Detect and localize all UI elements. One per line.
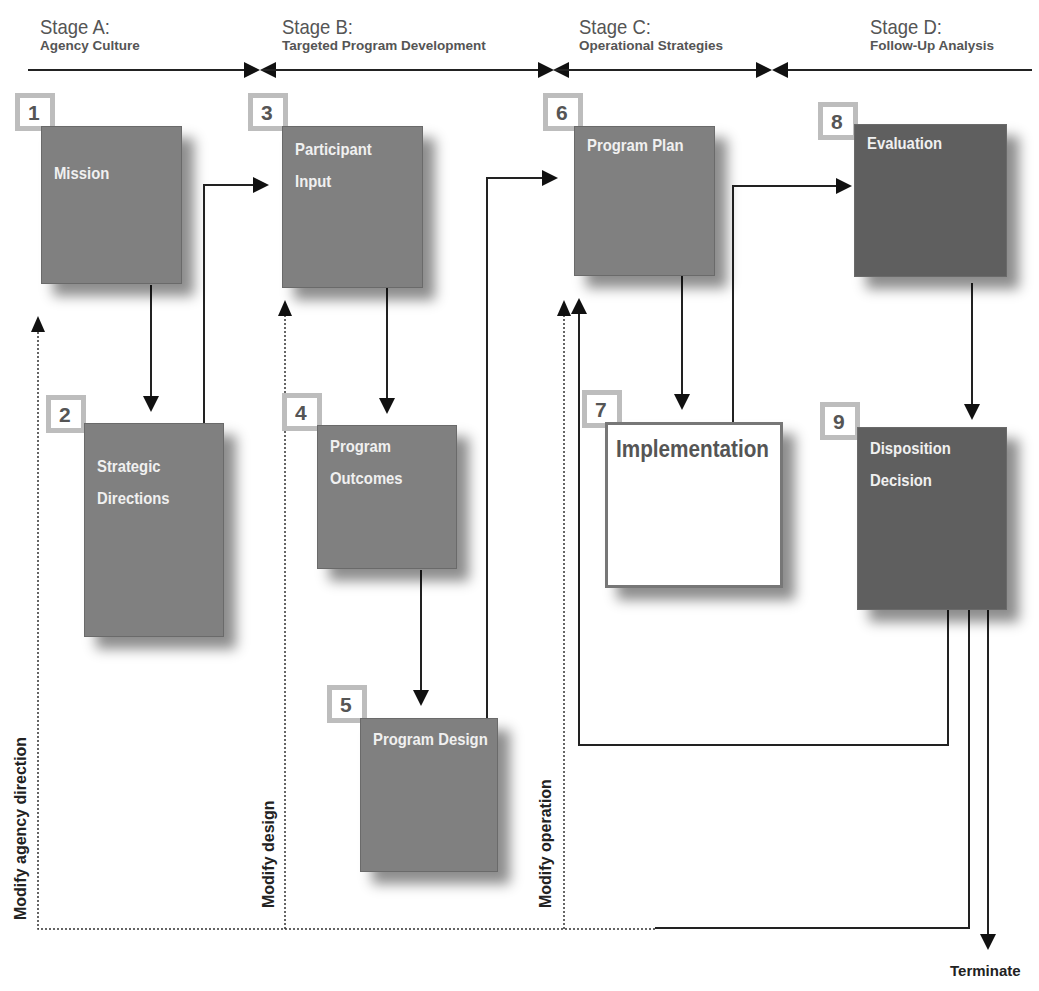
node-program-plan-label: Program Plan [587,129,691,161]
node-program-outcomes-label-1: Program [330,430,433,462]
node-mission-label: Mission [54,157,158,189]
node-strategic-directions[interactable]: Strategic Directions [84,423,224,637]
node-participant-input-label-1: Participant [295,133,399,165]
label-modify-design: Modify design [260,800,278,908]
node-strategic-directions-label-1: Strategic [97,450,200,482]
label-modify-agency-direction: Modify agency direction [12,737,30,920]
node-evaluation-label: Evaluation [867,127,981,159]
node-strategic-directions-label-2: Directions [97,482,200,514]
node-implementation[interactable]: Implementation [605,422,783,588]
node-implementation-label: Implementation [616,433,756,465]
label-modify-operation: Modify operation [537,779,555,908]
node-program-design-label: Program Design [373,723,474,755]
node-disposition-decision-label-2: Decision [870,464,982,496]
node-program-plan[interactable]: Program Plan [574,126,715,276]
node-4-number: 4 [282,393,322,431]
node-program-outcomes[interactable]: Program Outcomes [317,425,457,569]
node-participant-input[interactable]: Participant Input [282,126,423,288]
node-9-number: 9 [820,402,860,440]
node-evaluation[interactable]: Evaluation [854,124,1007,277]
node-8-number: 8 [818,102,858,140]
node-participant-input-label-2: Input [295,165,399,197]
node-mission[interactable]: Mission [41,126,182,284]
node-program-outcomes-label-2: Outcomes [330,462,433,494]
node-disposition-decision[interactable]: Disposition Decision [857,427,1007,610]
terminate-label: Terminate [950,962,1021,979]
node-program-design[interactable]: Program Design [360,718,498,872]
node-2-number: 2 [46,395,86,433]
node-disposition-decision-label-1: Disposition [870,432,982,464]
